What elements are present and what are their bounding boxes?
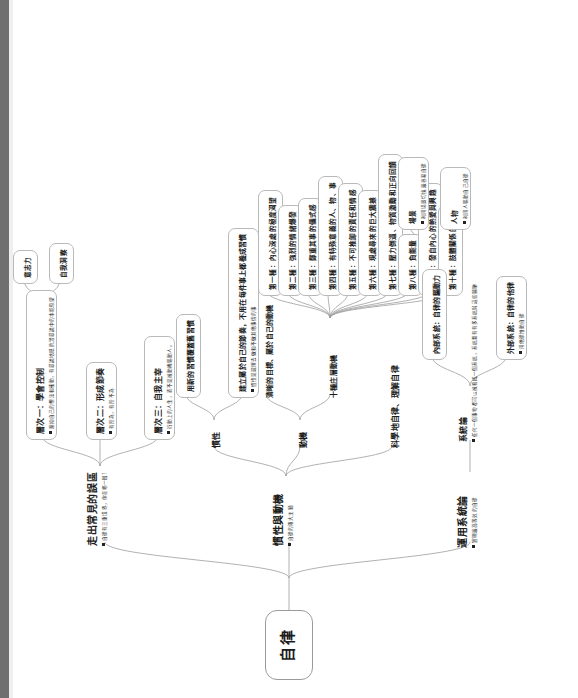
node-label: 用新的習慣覆蓋舊習慣 <box>187 320 195 392</box>
node-note: 行動上的人生，而不是被動機驅動人。 <box>167 342 172 434</box>
mindmap-rotated-layer: 自律 走出常見的誤區 自律有三重境界，你在哪一層？ 層次一：學會控制 壓抑自己的… <box>0 0 578 698</box>
branch-label: 慣性與動機 <box>273 493 284 546</box>
node-label: 內部系統：自律的驅動力 <box>433 275 441 354</box>
node-motivation-clear-goal[interactable]: 清晰的目標、屬於自己的動機 <box>258 304 277 398</box>
node-systems-theory[interactable]: 系統論 任何一個事物都可以被看成一個系統，系統要有有多系統與這些關聯 <box>452 284 477 442</box>
node-label: 人物 <box>451 210 459 224</box>
node-level-2[interactable]: 層次二：形成節奏 有所為，有所不為 <box>86 362 117 440</box>
branch-label: 走出常見的誤區 <box>87 472 98 546</box>
node-label: 層次二：形成節奏 <box>96 368 105 434</box>
node-note: 有所為，有所不為 <box>109 368 114 434</box>
node-label: 第三種：鄭重其事的儀式感 <box>309 204 317 290</box>
node-label: 清晰的目標、屬於自己的動機 <box>266 304 274 398</box>
node-label: 系統論 <box>459 417 468 442</box>
mindmap-connector-lines <box>0 0 578 698</box>
node-label: 科學地自律、理解自律 <box>391 365 400 448</box>
node-label: 層次一：學會控制 <box>36 368 45 434</box>
node-note: 利用場景切換最容易自律 <box>421 163 426 224</box>
branch-note: 自律的兩大主題 <box>288 493 293 546</box>
node-inertia-override-habit[interactable]: 用新的習慣覆蓋舊習慣 <box>176 314 201 398</box>
node-internal-system[interactable]: 內部系統：自律的驅動力 <box>422 269 447 360</box>
branch-慣性與動機[interactable]: 慣性與動機 自律的兩大主題 <box>268 493 293 546</box>
node-label: 第七種：壓力倒逼、物質激勵和正向回饋 <box>389 160 397 290</box>
node-level-1[interactable]: 層次一：學會控制 壓抑自己的想法和衝動，有意識地抵抗潛意識中的本能慾望 <box>26 290 57 440</box>
node-motivation[interactable]: 動機 <box>292 431 311 448</box>
node-label: 第八種：負能量 <box>409 240 417 290</box>
node-label: 慣性 <box>212 431 221 448</box>
node-label: 動機 <box>299 431 308 448</box>
node-inertia-own-rhythm[interactable]: 建立屬於自己的節奏，不用在每件事上都養成習慣 慣性是選擇去做和不做其他事情的事 <box>228 228 259 398</box>
node-label: 第二種：強烈的情緒爆發 <box>289 211 297 290</box>
node-level-3[interactable]: 層次三：自我主宰 行動上的人生，而不是被動機驅動人。 <box>144 336 175 440</box>
node-note: 用他律推動自律 <box>519 282 524 354</box>
node-note: 壓抑自己的想法和衝動，有意識地抵抗潛意識中的本能慾望 <box>49 296 54 434</box>
node-label: 第四種：有特殊意義的人、物、事 <box>329 182 337 290</box>
node-person[interactable]: 人物 利用人驅動自己自律 <box>440 167 471 230</box>
node-label: 第一種：內心深處的極度渴望 <box>269 196 277 290</box>
node-label: 外部系統：自律的他律 <box>507 282 515 354</box>
branch-label: 運用系統論 <box>457 495 468 548</box>
root-node[interactable]: 自律 <box>265 610 313 680</box>
branch-運用系統論[interactable]: 運用系統論 實現最高等效的自律 <box>452 495 477 548</box>
node-label: 自我洞察 <box>60 249 68 278</box>
node-label: 第五種：不可推卸的責任和情感 <box>349 189 357 290</box>
node-label: 第六種：現處尋來的巨大震撼 <box>369 196 377 290</box>
node-label: 場景 <box>409 210 417 224</box>
node-note: 利用人驅動自己自律 <box>463 173 468 224</box>
node-science-of-self-discipline[interactable]: 科學地自律、理解自律 <box>384 365 403 448</box>
node-label: 建立屬於自己的節奏，不用在每件事上都養成習慣 <box>239 234 247 392</box>
mindmap-page: 自律 走出常見的誤區 自律有三重境界，你在哪一層？ 層次一：學會控制 壓抑自己的… <box>0 0 578 698</box>
branch-走出常見的誤區[interactable]: 走出常見的誤區 自律有三重境界，你在哪一層？ <box>82 470 107 546</box>
branch-note: 實現最高等效的自律 <box>472 495 477 548</box>
node-label: 十種庄層動機 <box>330 355 338 398</box>
node-inertia[interactable]: 慣性 <box>205 431 224 448</box>
node-scene[interactable]: 場景 利用場景切換最容易自律 <box>398 157 429 230</box>
node-external-system[interactable]: 外部系統：自律的他律 用他律推動自律 <box>496 276 527 360</box>
root-label: 自律 <box>280 628 298 662</box>
node-label: 意志力 <box>24 256 32 278</box>
mindmap-canvas: 自律 走出常見的誤區 自律有三重境界，你在哪一層？ 層次一：學會控制 壓抑自己的… <box>0 0 578 698</box>
node-ten-motivations[interactable]: 十種庄層動機 <box>322 355 341 398</box>
node-note: 慣性是選擇去做和不做其他事情的事 <box>251 234 256 392</box>
node-self-insight[interactable]: 自我洞察 <box>49 243 74 284</box>
node-label: 層次三：自我主宰 <box>154 368 163 434</box>
branch-note: 自律有三重境界，你在哪一層？ <box>102 470 107 546</box>
node-note: 任何一個事物都可以被看成一個系統，系統要有有多系統與這些關聯 <box>472 284 477 442</box>
node-willpower[interactable]: 意志力 <box>13 250 38 284</box>
